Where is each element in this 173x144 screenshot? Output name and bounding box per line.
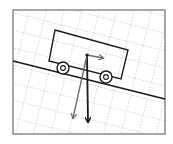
grid-line bbox=[0, 0, 173, 31]
grid-line bbox=[154, 0, 173, 144]
center-of-mass-dot bbox=[85, 53, 88, 56]
incline-line bbox=[13, 61, 165, 99]
wheel-1 bbox=[57, 62, 69, 74]
grid-line bbox=[0, 0, 10, 144]
grid-line bbox=[0, 87, 173, 144]
cart bbox=[49, 30, 128, 83]
grid-line bbox=[137, 0, 173, 144]
incline-cart-diagram bbox=[0, 0, 173, 144]
frame-border bbox=[13, 10, 165, 134]
wheel-2 bbox=[100, 71, 112, 83]
parallel-component-arrow-icon bbox=[87, 55, 103, 58]
force-arrows bbox=[73, 53, 103, 122]
grid-line bbox=[0, 0, 173, 48]
grid-line bbox=[0, 0, 173, 15]
grid-line bbox=[39, 0, 126, 144]
grid-line bbox=[0, 0, 60, 144]
grid-line bbox=[0, 120, 173, 144]
grid-line bbox=[170, 0, 173, 144]
grid-line bbox=[88, 0, 173, 144]
gravity-arrow-icon bbox=[87, 55, 88, 122]
grid-line bbox=[72, 0, 159, 144]
grid-line bbox=[0, 137, 173, 144]
grid-line bbox=[0, 104, 173, 144]
grid-line bbox=[105, 0, 173, 144]
grid-line bbox=[0, 0, 43, 144]
grid-line bbox=[0, 5, 173, 97]
